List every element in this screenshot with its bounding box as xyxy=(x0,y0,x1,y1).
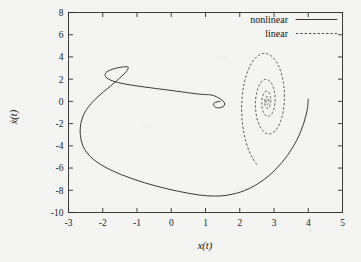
y-tick-label: -2 xyxy=(56,119,64,129)
y-tick-label: 8 xyxy=(59,8,64,18)
x-tick-label: -1 xyxy=(133,218,141,228)
y-tick-label: 0 xyxy=(59,97,64,107)
x-tick-label: 3 xyxy=(272,218,277,228)
x-tick-label: 2 xyxy=(237,218,242,228)
y-tick-label: 4 xyxy=(59,52,64,62)
y-tick-label: -10 xyxy=(51,208,64,218)
x-tick-label: -2 xyxy=(99,218,107,228)
x-tick-label: -3 xyxy=(65,218,73,228)
phase-portrait-chart: -3-2-1012345 -10-8-6-4-202468 x(t) ẋ(t)… xyxy=(0,0,361,262)
legend-entry-linear: linear xyxy=(265,28,288,39)
y-tick-label: -8 xyxy=(56,186,64,196)
legend-entry-nonlinear: nonlinear xyxy=(250,14,288,25)
x-tick-label: 0 xyxy=(169,218,174,228)
y-tick-label: 2 xyxy=(59,75,64,85)
y-tick-label: -6 xyxy=(56,163,64,173)
x-axis-label: x(t) xyxy=(197,240,213,252)
y-tick-label: 6 xyxy=(59,30,64,40)
x-tick-label: 1 xyxy=(203,218,208,228)
y-tick-label: -4 xyxy=(56,141,64,151)
x-tick-label: 5 xyxy=(340,218,345,228)
x-tick-label: 4 xyxy=(306,218,311,228)
y-axis-label: ẋ(t) xyxy=(8,109,20,125)
